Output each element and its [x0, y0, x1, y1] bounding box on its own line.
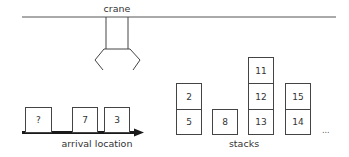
crane-icon	[95, 17, 140, 70]
stack-container: 2	[176, 83, 202, 110]
stack-container: 13	[248, 109, 274, 135]
stack-container: 15	[285, 83, 311, 110]
arrival-container: ?	[25, 107, 52, 133]
stacks-label: stacks	[229, 139, 259, 149]
stack-container: 8	[212, 109, 238, 135]
stack-container: 11	[248, 57, 274, 84]
crane-diagram: crane ?73 arrival location 2581112131514…	[0, 0, 349, 157]
arrival-container: 7	[72, 107, 98, 133]
crane-label: crane	[104, 4, 131, 14]
arrival-container: 3	[104, 107, 130, 133]
arrival-location-label: arrival location	[62, 139, 133, 149]
more-stacks-indicator: ...	[322, 126, 330, 135]
stack-container: 5	[176, 109, 202, 135]
stack-container: 12	[248, 83, 274, 110]
stack-container: 14	[285, 109, 311, 135]
